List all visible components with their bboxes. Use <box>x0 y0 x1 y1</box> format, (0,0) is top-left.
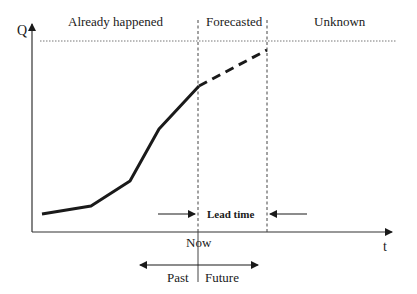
region-label-already-happened: Already happened <box>68 15 163 28</box>
future-label: Future <box>205 271 239 284</box>
region-label-forecasted: Forecasted <box>206 15 262 28</box>
past-label: Past <box>167 271 189 284</box>
region-label-unknown: Unknown <box>314 15 365 28</box>
forecast-dashed-line <box>199 50 267 86</box>
lead-time-label: Lead time <box>207 209 254 220</box>
x-axis-label: t <box>383 240 387 254</box>
observed-line <box>42 86 199 214</box>
now-label: Now <box>186 236 211 249</box>
forecast-diagram: Already happened Forecasted Unknown Q t … <box>0 0 417 294</box>
y-axis-label: Q <box>17 24 27 38</box>
